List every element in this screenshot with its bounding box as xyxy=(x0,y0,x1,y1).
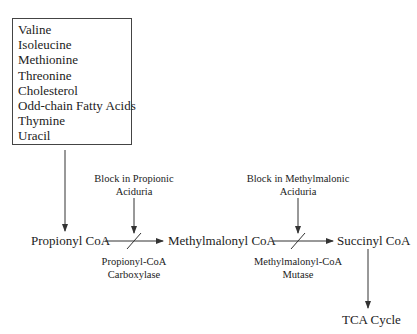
label-mutase-enzyme: Methylmalonyl-CoA Mutase xyxy=(250,255,346,281)
label-propionic-block: Block in Propionic Aciduria xyxy=(94,172,174,198)
label-carboxylase-enzyme: Propionyl-CoA Carboxylase xyxy=(94,255,174,281)
arrows-layer xyxy=(0,0,417,334)
node-propionyl-coa: Propionyl CoA xyxy=(31,233,110,249)
label-methylmalonic-block: Block in Methylmalonic Aciduria xyxy=(246,172,350,198)
node-succinyl-coa: Succinyl CoA xyxy=(337,233,410,249)
node-methylmalonyl-coa: Methylmalonyl CoA xyxy=(168,233,276,249)
node-tca-cycle: TCA Cycle xyxy=(342,312,401,328)
